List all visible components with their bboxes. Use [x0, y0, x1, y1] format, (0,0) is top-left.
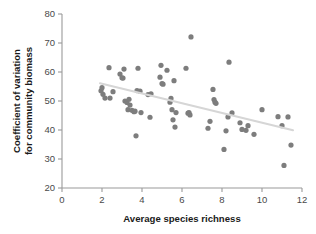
x-tick-label: 8 — [219, 194, 224, 205]
data-point — [275, 114, 280, 119]
y-tick-label: 60 — [44, 66, 55, 77]
data-points-layer — [98, 34, 293, 168]
data-point — [164, 68, 169, 73]
y-tick-label: 20 — [44, 182, 55, 193]
data-point — [281, 163, 286, 168]
chart-figure: 20304050607080 024681012 Average species… — [0, 0, 316, 234]
y-tick-label: 70 — [44, 37, 55, 48]
data-point — [170, 117, 175, 122]
data-point — [147, 115, 152, 120]
data-point — [127, 102, 132, 107]
y-tick-label: 30 — [44, 153, 55, 164]
y-tick-label: 50 — [44, 95, 55, 106]
x-tick-label: 4 — [139, 194, 144, 205]
data-point — [221, 147, 226, 152]
y-axis-title-line-1: Coefficient of variation — [11, 49, 22, 153]
y-tick-label: 40 — [44, 124, 55, 135]
data-point — [157, 75, 162, 80]
data-point — [99, 85, 104, 90]
x-tick-label: 10 — [257, 194, 268, 205]
data-point — [207, 119, 212, 124]
data-point — [106, 65, 111, 70]
data-point — [205, 126, 210, 131]
data-point — [132, 109, 137, 114]
x-tick-label: 12 — [297, 194, 308, 205]
data-point — [288, 142, 293, 147]
data-point — [210, 87, 215, 92]
data-point — [251, 132, 256, 137]
data-point — [107, 96, 112, 101]
scatter-plot: 20304050607080 024681012 Average species… — [0, 0, 316, 234]
data-point — [120, 75, 125, 80]
data-point — [102, 96, 107, 101]
data-point — [245, 123, 250, 128]
data-point — [223, 128, 228, 133]
data-point — [237, 120, 242, 125]
axes-group — [62, 14, 302, 188]
y-axis-title-line-2: for community biomass — [23, 47, 34, 155]
data-point — [188, 34, 193, 39]
x-tick-label: 0 — [59, 194, 64, 205]
data-point — [133, 133, 138, 138]
data-point — [213, 101, 218, 106]
data-point — [138, 110, 143, 115]
data-point — [160, 82, 165, 87]
x-tick-label: 2 — [99, 194, 104, 205]
y-axis-title: Coefficient of variation for community b… — [11, 47, 34, 155]
data-point — [183, 66, 188, 71]
x-tick-label: 6 — [179, 194, 184, 205]
data-point — [173, 110, 178, 115]
data-point — [121, 67, 126, 72]
x-axis-ticks: 024681012 — [59, 188, 307, 205]
data-point — [187, 112, 192, 117]
data-point — [243, 128, 248, 133]
data-point — [158, 63, 163, 68]
data-point — [226, 60, 231, 65]
x-axis-title: Average species richness — [123, 213, 241, 224]
y-axis-ticks: 20304050607080 — [44, 8, 62, 193]
y-tick-label: 80 — [44, 8, 55, 19]
data-point — [171, 78, 176, 83]
data-point — [285, 114, 290, 119]
data-point — [135, 66, 140, 71]
data-point — [110, 89, 115, 94]
data-point — [259, 107, 264, 112]
data-point — [126, 97, 131, 102]
data-point — [172, 125, 177, 130]
